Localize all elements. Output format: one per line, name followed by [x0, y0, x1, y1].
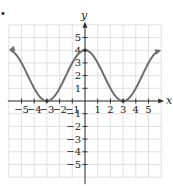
x-tick-label: 5	[145, 104, 151, 115]
y-tick-label: −2	[66, 121, 81, 132]
y-tick-label: 2	[75, 70, 81, 81]
y-tick-label: 1	[75, 83, 81, 94]
axes	[8, 22, 164, 184]
key-point	[83, 48, 87, 52]
y-tick-label: 5	[75, 32, 81, 43]
x-axis-label: x	[166, 94, 173, 107]
problem-bullet: •	[0, 8, 6, 19]
x-tick-label: 3	[120, 104, 126, 115]
curve-arrow-icon	[9, 46, 16, 51]
key-point	[45, 99, 49, 103]
y-axis-label: y	[80, 9, 88, 22]
y-tick-label: −1	[66, 108, 81, 119]
graph: • −5−4−3−2−112345−5−4−3−2−112345 x y	[0, 0, 173, 186]
key-point	[121, 99, 125, 103]
x-tick-label: 2	[107, 104, 113, 115]
y-tick-label: −3	[66, 134, 81, 145]
y-tick-label: −5	[66, 159, 81, 170]
x-tick-label: 1	[95, 104, 101, 115]
y-tick-label: −4	[66, 146, 81, 157]
x-tick-label: 4	[133, 104, 139, 115]
